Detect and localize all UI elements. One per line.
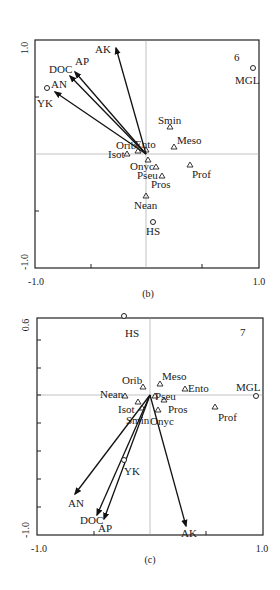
label-HS-c: HS [125, 327, 139, 339]
label-Ento-c: Ento [188, 382, 209, 394]
label-AN-c: AN [68, 497, 84, 509]
y-tick-label-bottom-c: -1.0 [20, 522, 31, 538]
sample-AN-b [45, 86, 50, 91]
x-tick-label-left-c: -1.0 [31, 543, 47, 554]
sample-HS-c [122, 314, 127, 319]
label-Meso-b: Meso [177, 134, 202, 146]
label-AP-c: AP [98, 522, 112, 534]
label-Nean-c: Nean [100, 388, 124, 400]
species-Isot-c [135, 399, 141, 404]
species-Isot-b [124, 151, 130, 156]
label-DOC-b: DOC [49, 63, 72, 75]
label-Pros-b: Pros [151, 178, 171, 190]
sample-MGL-c [254, 394, 259, 399]
label-Meso-c: Meso [162, 370, 187, 382]
label-AK-c: AK [181, 527, 197, 539]
x-tick-label-right-b: 1.0 [253, 276, 266, 287]
label-Onyc-c: Onyc [150, 415, 174, 427]
label-AK-b: AK [95, 43, 111, 55]
label-AN-b: AN [51, 78, 67, 90]
sample-YK-c [122, 458, 127, 463]
species-Prof-b [187, 162, 193, 167]
label-YK-b: YK [37, 97, 53, 109]
label-Prof-c: Prof [218, 411, 237, 423]
panel-caption-c: (c) [144, 554, 155, 566]
label-Pros-c: Pros [168, 403, 188, 415]
panel-b: 1.0 -1.0 -1.0 1.0 (b) 6 AK AP DOC AN YK … [19, 40, 265, 300]
label-YK-c: YK [124, 465, 140, 477]
sample-MGL-b [251, 66, 256, 71]
panel-c: 0.6 -1.0 -1.0 1.0 (c) 7 AN DOC AP AK HS … [20, 314, 268, 567]
label-Prof-b: Prof [192, 168, 211, 180]
species-Prof-c [212, 404, 218, 409]
panel-caption-b: (b) [142, 288, 154, 300]
y-tick-label-top-b: 1.0 [19, 42, 30, 55]
label-Nean-b: Nean [134, 199, 158, 211]
species-Onyc-c [155, 407, 161, 412]
label-HS-b: HS [146, 225, 160, 237]
x-tick-label-left-b: -1.0 [28, 276, 44, 287]
label-MGL-c: MGL [236, 381, 261, 393]
plot-number-c: 7 [240, 326, 246, 338]
biplot-figure: 1.0 -1.0 -1.0 1.0 (b) 6 AK AP DOC AN YK … [0, 0, 280, 590]
x-tick-label-right-c: 1.0 [256, 543, 269, 554]
y-tick-label-top-c: 0.6 [20, 319, 31, 332]
label-AP-b: AP [75, 55, 89, 67]
label-MGL-b: MGL [235, 74, 260, 86]
plot-number-b: 6 [234, 51, 240, 63]
y-tick-label-bottom-b: -1.0 [19, 254, 30, 270]
label-Smin-b: Smin [158, 114, 182, 126]
label-Smin-c: Smin [126, 414, 150, 426]
label-Isot-b: Isot [108, 148, 125, 160]
sample-HS-b [151, 220, 156, 225]
label-Orib-c: Orib [122, 374, 143, 386]
